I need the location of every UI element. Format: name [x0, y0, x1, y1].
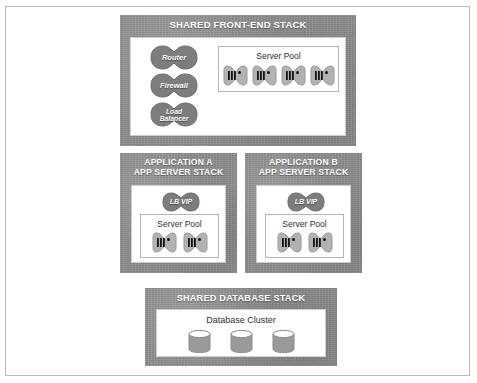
pool-icons-front-end — [219, 64, 338, 87]
panel-application-a: LB VIP Server Pool — [131, 185, 226, 263]
panel-application-b: LB VIP Server Pool — [256, 185, 351, 263]
stack-shared-front-end: SHARED FRONT-END STACK Router Firewall — [120, 15, 356, 146]
pool-label-application-a: Server Pool — [141, 219, 218, 229]
server-icon — [281, 64, 306, 87]
netblob-lb-vip-b: LB VIP — [282, 190, 330, 214]
database-cylinder-icon — [229, 329, 254, 354]
panel-database-cluster: Database Cluster — [156, 309, 326, 357]
pool-front-end: Server Pool — [218, 46, 339, 92]
stack-application-a: APPLICATION A APP SERVER STACK LB VIP Se… — [120, 153, 237, 273]
stack-title-application-a: APPLICATION A APP SERVER STACK — [120, 158, 237, 177]
server-icon — [183, 231, 208, 254]
database-cylinder-icon — [271, 329, 296, 354]
netblob-load-balancer: Load Balancer — [143, 99, 205, 130]
server-icon — [152, 231, 177, 254]
stack-title-application-b: APPLICATION B APP SERVER STACK — [245, 158, 362, 177]
server-icon — [308, 231, 333, 254]
netblob-lb-vip-a: LB VIP — [157, 190, 205, 214]
pool-icons-application-b — [266, 231, 343, 254]
panel-front-end: Router Firewall Load Balancer Server Poo… — [130, 37, 346, 136]
stack-shared-database: SHARED DATABASE STACK Database Cluster — [145, 288, 337, 366]
pool-label-application-b: Server Pool — [266, 219, 343, 229]
db-node-row — [157, 329, 325, 354]
db-cluster-label: Database Cluster — [157, 315, 325, 325]
server-icon — [277, 231, 302, 254]
stack-title-shared-front-end: SHARED FRONT-END STACK — [120, 20, 356, 31]
stack-title-shared-database: SHARED DATABASE STACK — [145, 293, 337, 303]
stack-application-b: APPLICATION B APP SERVER STACK LB VIP Se… — [245, 153, 362, 273]
pool-application-b: Server Pool — [265, 214, 344, 258]
server-icon — [223, 64, 248, 87]
server-icon — [252, 64, 277, 87]
database-cylinder-icon — [187, 329, 212, 354]
server-icon — [310, 64, 335, 87]
pool-application-a: Server Pool — [140, 214, 219, 258]
pool-label-front-end: Server Pool — [219, 51, 338, 61]
pool-icons-application-a — [141, 231, 218, 254]
diagram-frame: SHARED FRONT-END STACK Router Firewall — [5, 6, 470, 376]
netblob-router: Router — [143, 43, 205, 72]
netblob-firewall: Firewall — [143, 71, 205, 100]
